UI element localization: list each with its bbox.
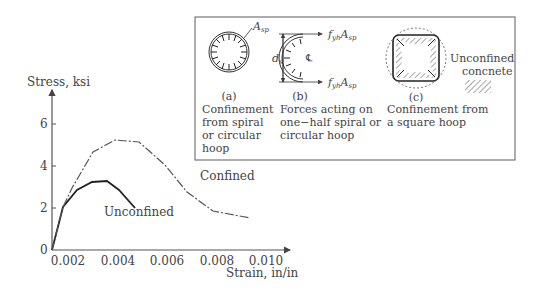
y-tick-0: 0 bbox=[40, 243, 48, 257]
caption-a-2: from spiral bbox=[202, 116, 264, 129]
hatch-legend-swatch bbox=[465, 80, 491, 93]
caption-c-2: a square hoop bbox=[387, 116, 466, 129]
y-tick-2: 2 bbox=[40, 201, 48, 215]
y-axis bbox=[52, 90, 56, 250]
confined-label: Confined bbox=[200, 169, 255, 183]
x-tick-0.004: 0.004 bbox=[101, 254, 136, 268]
caption-b-1: Forces acting on bbox=[280, 103, 373, 116]
inset-box: Asp (a) Confinement from spiral or circu… bbox=[195, 17, 515, 160]
legend-unconfined-2: concnete bbox=[462, 65, 513, 78]
tag-b: (b) bbox=[292, 90, 308, 103]
unconfined-label: Unconfined bbox=[104, 205, 174, 219]
centerline-symbol: ℄ bbox=[305, 52, 313, 63]
x-tick-0.008: 0.008 bbox=[200, 254, 234, 268]
y-tick-4: 4 bbox=[40, 159, 48, 173]
tag-a: (a) bbox=[221, 90, 236, 103]
x-tick-0.002: 0.002 bbox=[51, 254, 85, 268]
figure: Stress, ksi Strain, in/in 0 2 4 6 0.002 … bbox=[0, 0, 543, 298]
caption-c-1: Confinement from bbox=[387, 103, 489, 116]
caption-a-4: hoop bbox=[202, 142, 229, 155]
y-axis-label: Stress, ksi bbox=[27, 75, 90, 89]
x-axis-label: Strain, in/in bbox=[226, 266, 299, 280]
x-tick-0.006: 0.006 bbox=[150, 254, 184, 268]
caption-a-3: or circular bbox=[202, 129, 262, 142]
caption-b-2: one−half spiral or bbox=[280, 116, 382, 129]
y-tick-6: 6 bbox=[40, 117, 48, 131]
caption-b-3: circular hoop bbox=[280, 129, 354, 142]
caption-a-1: Confinement bbox=[202, 103, 274, 116]
legend-unconfined-1: Unconfined bbox=[450, 52, 514, 65]
x-tick-0.010: 0.010 bbox=[249, 254, 283, 268]
